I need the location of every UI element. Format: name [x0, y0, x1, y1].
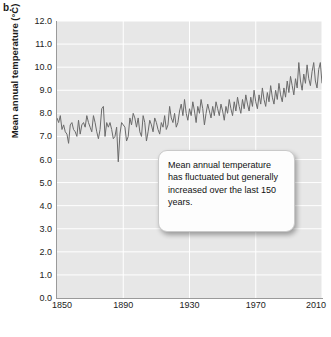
- trend-callout-text: Mean annual temperature has fluctuated b…: [168, 159, 285, 209]
- x-axis-line: [56, 298, 323, 299]
- trend-callout: Mean annual temperature has fluctuated b…: [158, 150, 295, 232]
- x-tick-label: 1930: [179, 300, 199, 310]
- x-tick-label: 1890: [113, 300, 133, 310]
- x-tick-label: 2010: [306, 300, 326, 310]
- x-tick-label: 1970: [246, 300, 266, 310]
- x-tick-label: 1850: [52, 300, 72, 310]
